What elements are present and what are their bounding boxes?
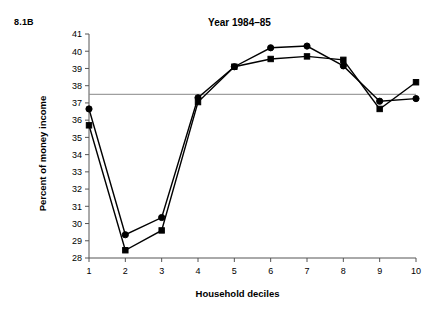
svg-text:35: 35 bbox=[72, 133, 82, 143]
svg-text:40: 40 bbox=[72, 47, 82, 57]
svg-text:36: 36 bbox=[72, 115, 82, 125]
svg-text:8: 8 bbox=[341, 266, 346, 276]
svg-text:1: 1 bbox=[86, 266, 91, 276]
svg-text:30: 30 bbox=[72, 219, 82, 229]
series-markers bbox=[86, 43, 419, 253]
svg-text:39: 39 bbox=[72, 64, 82, 74]
svg-text:38: 38 bbox=[72, 81, 82, 91]
svg-text:32: 32 bbox=[72, 184, 82, 194]
svg-text:29: 29 bbox=[72, 236, 82, 246]
chart-figure: 8.1B Year 1984–85 Percent of money incom… bbox=[0, 0, 433, 311]
svg-text:4: 4 bbox=[195, 266, 200, 276]
series-lines bbox=[89, 46, 416, 250]
svg-text:3: 3 bbox=[159, 266, 164, 276]
svg-text:28: 28 bbox=[72, 253, 82, 263]
svg-text:34: 34 bbox=[72, 150, 82, 160]
svg-text:10: 10 bbox=[411, 266, 421, 276]
svg-text:9: 9 bbox=[377, 266, 382, 276]
svg-text:5: 5 bbox=[232, 266, 237, 276]
axis-lines bbox=[89, 34, 416, 258]
plot-area: 2829303132333435363738394041 12345678910 bbox=[0, 0, 433, 311]
svg-text:37: 37 bbox=[72, 98, 82, 108]
y-axis-ticks: 2829303132333435363738394041 bbox=[72, 29, 89, 263]
svg-text:6: 6 bbox=[268, 266, 273, 276]
svg-text:33: 33 bbox=[72, 167, 82, 177]
svg-text:2: 2 bbox=[123, 266, 128, 276]
x-axis-ticks: 12345678910 bbox=[86, 258, 421, 276]
svg-text:41: 41 bbox=[72, 29, 82, 39]
svg-text:31: 31 bbox=[72, 202, 82, 212]
svg-text:7: 7 bbox=[304, 266, 309, 276]
